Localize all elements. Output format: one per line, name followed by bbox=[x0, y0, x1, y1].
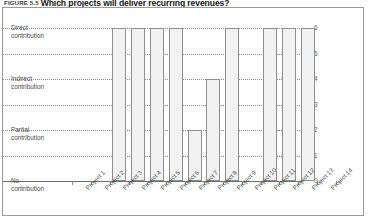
bar bbox=[282, 28, 296, 181]
figure-container: FIGURE 5.5Which projects will deliver re… bbox=[0, 0, 368, 218]
x-tick bbox=[72, 181, 73, 185]
y-category-label-line1: Indirect bbox=[11, 75, 71, 83]
bar-slot bbox=[261, 28, 280, 181]
bar-slot bbox=[242, 28, 261, 181]
y-category-label-4: Indirectcontribution bbox=[11, 75, 71, 91]
bar-slot bbox=[91, 28, 110, 181]
bar bbox=[301, 28, 315, 181]
bar bbox=[150, 28, 164, 181]
bar bbox=[131, 28, 145, 181]
y-category-label-line2: contribution bbox=[11, 185, 71, 193]
y-category-label-line1: Direct bbox=[11, 24, 71, 32]
y-category-label-line2: contribution bbox=[11, 32, 71, 40]
bar-slot bbox=[279, 28, 298, 181]
y-category-label-2: Partialcontribution bbox=[11, 126, 71, 142]
bar bbox=[112, 28, 126, 181]
figure-number: FIGURE 5.5 bbox=[4, 0, 39, 6]
bar-slot bbox=[204, 28, 223, 181]
bar bbox=[263, 28, 277, 181]
bar-slot bbox=[110, 28, 129, 181]
y-category-label-6: Directcontribution bbox=[11, 24, 71, 40]
bar bbox=[169, 28, 183, 181]
y-category-label-0: Nocontribution bbox=[11, 177, 71, 193]
chart-frame: 6543210 DirectcontributionIndirectcontri… bbox=[2, 7, 364, 216]
bar-slot bbox=[72, 28, 91, 181]
plot-area: 6543210 DirectcontributionIndirectcontri… bbox=[72, 28, 336, 181]
y-category-label-line1: Partial bbox=[11, 126, 71, 134]
bar-slot bbox=[166, 28, 185, 181]
bar-slot bbox=[129, 28, 148, 181]
bar bbox=[206, 79, 220, 181]
y-category-label-line2: contribution bbox=[11, 83, 71, 91]
bar-slot bbox=[298, 28, 317, 181]
bar-slot bbox=[185, 28, 204, 181]
y-category-label-line2: contribution bbox=[11, 134, 71, 142]
bar-series bbox=[72, 28, 336, 181]
y-category-label-line1: No bbox=[11, 177, 71, 185]
bar-slot bbox=[147, 28, 166, 181]
bar-slot bbox=[223, 28, 242, 181]
bar bbox=[225, 28, 239, 181]
bar-slot bbox=[317, 28, 336, 181]
